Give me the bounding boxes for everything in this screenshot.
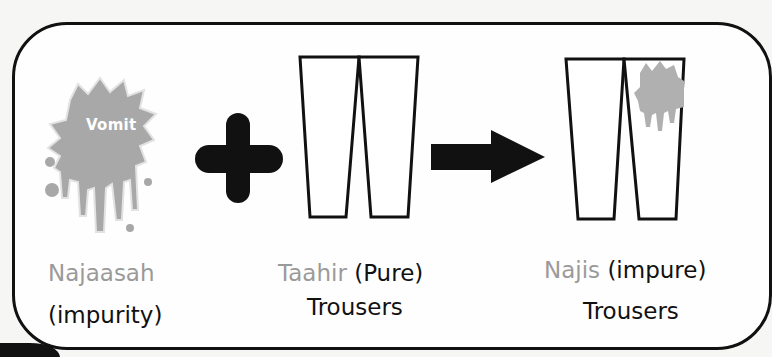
impurity-meaning: (impurity) xyxy=(48,300,162,330)
najis-label: Najis (impure) xyxy=(544,255,706,285)
impure-meaning: (impure) xyxy=(607,257,706,283)
najaasah-term: Najaasah xyxy=(48,260,155,286)
vomit-label: Vomit xyxy=(86,116,137,134)
taahir-label: Taahir (Pure) xyxy=(278,258,423,288)
impure-trousers-label: Trousers xyxy=(583,296,679,326)
najaasah-label: Najaasah xyxy=(48,258,155,288)
taahir-term: Taahir xyxy=(278,260,347,286)
najis-term: Najis xyxy=(544,257,600,283)
pure-trousers-icon xyxy=(298,55,423,220)
plus-icon xyxy=(195,110,285,205)
impure-trousers-icon xyxy=(564,57,689,222)
arrow-right-icon xyxy=(431,130,547,185)
pure-meaning: (Pure) xyxy=(354,260,423,286)
pure-trousers-label: Trousers xyxy=(307,292,403,322)
vomit-splat-icon xyxy=(40,70,170,240)
